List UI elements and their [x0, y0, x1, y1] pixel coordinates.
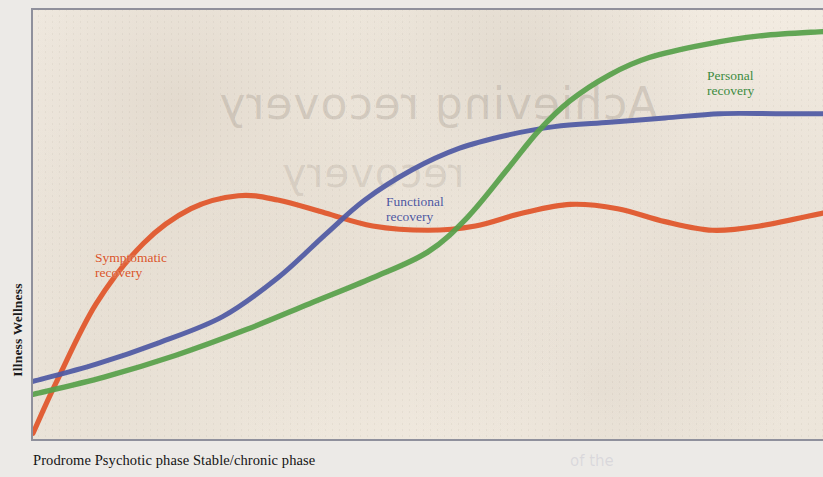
recovery-curves-plot [33, 10, 823, 441]
y-axis-title: Illness Wellness [10, 250, 26, 410]
plot-area: Achieving recovery recovery Symptomatic … [31, 8, 823, 441]
caption-bleed-text: of the [570, 452, 614, 470]
figure-canvas: Achieving recovery recovery Symptomatic … [0, 0, 823, 477]
curve-label-functional-line1: Functional [386, 194, 444, 209]
curve-label-symptomatic-line1: Symptomatic [95, 250, 167, 265]
curve-symptomatic-recovery [33, 195, 823, 433]
x-axis-title: Prodrome Psychotic phase Stable/chronic … [33, 452, 315, 469]
curve-label-personal-line2: recovery [707, 83, 754, 98]
curve-label-symptomatic-recovery: Symptomatic recovery [95, 250, 167, 280]
curve-path-symptomatic [33, 195, 823, 433]
curve-label-personal-recovery: Personal recovery [707, 68, 754, 98]
curve-label-functional-line2: recovery [386, 209, 444, 224]
curve-label-symptomatic-line2: recovery [95, 265, 167, 280]
curve-functional-recovery [33, 113, 823, 381]
curve-label-functional-recovery: Functional recovery [386, 194, 444, 224]
curve-path-functional [33, 113, 823, 381]
curve-label-personal-line1: Personal [707, 68, 754, 83]
